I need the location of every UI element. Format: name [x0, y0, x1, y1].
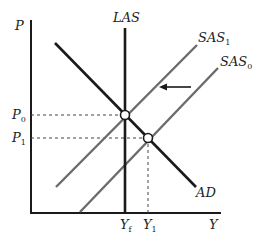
- yf-label: Yf: [120, 217, 133, 234]
- ad-as-diagram: P Y LAS SAS1 SAS0 AD P0 P1 Yf Y1: [0, 0, 261, 243]
- sas1-label: SAS1: [198, 30, 230, 47]
- p1-label: P1: [11, 130, 26, 147]
- p0-label: P0: [11, 107, 26, 124]
- y1-label: Y1: [143, 217, 157, 234]
- las-label: LAS: [112, 10, 140, 25]
- ad-label: AD: [195, 185, 216, 200]
- y-axis-label: P: [14, 18, 24, 33]
- equilibrium-initial: [121, 111, 130, 120]
- equilibrium-new: [144, 134, 153, 143]
- x-axis-label: Y: [209, 217, 219, 232]
- sas0-label: SAS0: [220, 54, 252, 71]
- shift-arrow-icon: [159, 84, 191, 91]
